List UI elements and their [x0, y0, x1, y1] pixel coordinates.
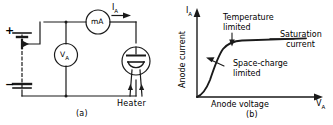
- annotation-saturation-current-line2: current: [286, 40, 322, 50]
- voltmeter-label-subscript: A: [65, 55, 69, 61]
- ammeter-label: mA: [91, 18, 103, 26]
- annotation-saturation-current-line1: Saturation: [280, 30, 322, 40]
- annotation-space-charge-limited: Space-charge limited: [233, 59, 288, 78]
- heater-arrowhead-right: [139, 84, 144, 90]
- annotation-temperature-limited-line2: limited: [223, 23, 274, 33]
- junction-dot-bottom: [65, 95, 68, 98]
- panel-a-caption: (a): [76, 110, 88, 118]
- heater-arrowhead-left: [128, 84, 133, 90]
- annotation-temperature-limited: Temperature limited: [223, 13, 274, 32]
- annotation-space-charge-limited-line2: limited: [233, 69, 288, 79]
- figure-container: + − mA VA IA Heater (a): [0, 0, 333, 125]
- tube-cathode-cup: [128, 62, 144, 68]
- panel-b-caption: (b): [246, 111, 258, 119]
- panel-a-circuit: + − mA VA IA Heater (a): [0, 0, 166, 125]
- x-axis-symbol-subscript: A: [321, 104, 325, 110]
- anode-current-subscript: A: [114, 8, 118, 14]
- annotation-saturation-current: Saturation current: [280, 30, 322, 49]
- x-axis-label: Anode voltage: [211, 101, 269, 109]
- wiper-arrowhead: [23, 41, 29, 47]
- y-axis-label: Anode current: [178, 31, 188, 88]
- battery-negative-sign: −: [5, 79, 14, 90]
- battery-positive-sign: +: [5, 25, 14, 36]
- annotation-space-charge-limited-line1: Space-charge: [233, 59, 288, 69]
- y-axis-label-text: Anode current: [178, 31, 187, 88]
- x-axis-symbol: VA: [316, 100, 325, 110]
- current-arrowhead: [123, 13, 131, 19]
- annotation-temperature-limited-line1: Temperature: [223, 13, 274, 23]
- y-axis-symbol-subscript: A: [188, 11, 192, 17]
- y-axis-arrowhead: [194, 8, 201, 17]
- anode-current-arrow-label: IA: [112, 4, 118, 14]
- voltmeter-label: VA: [60, 51, 69, 61]
- heater-label: Heater: [117, 100, 146, 108]
- junction-dot-top: [65, 21, 68, 24]
- y-axis-symbol: IA: [186, 7, 192, 17]
- panel-b-graph: IA VA Anode current Anode voltage Temper…: [166, 0, 333, 125]
